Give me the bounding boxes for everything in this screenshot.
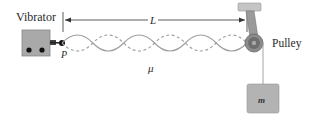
linear-density-label: μ — [148, 63, 154, 74]
point-p-label: P — [61, 50, 67, 60]
length-label: L — [148, 15, 158, 26]
standing-wave-diagram: Vibrator Pulley L μ P m — [0, 0, 313, 117]
pulley — [238, 3, 263, 84]
standing-wave — [62, 35, 247, 51]
pulley-label: Pulley — [272, 38, 301, 50]
vibrator-label: Vibrator — [16, 11, 56, 23]
mass-label: m — [258, 96, 265, 105]
vibrator — [22, 30, 65, 56]
